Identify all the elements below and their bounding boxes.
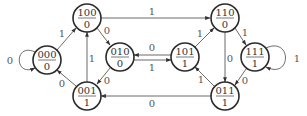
state-output: 0 — [117, 58, 123, 69]
state-code: 101 — [175, 46, 194, 57]
edge-label-011-101: 1 — [198, 74, 204, 85]
state-111: 111 1 — [241, 43, 269, 71]
state-code: 000 — [37, 49, 56, 60]
edge-label-011-001: 0 — [149, 98, 155, 109]
state-code: 100 — [77, 7, 96, 18]
state-output: 1 — [222, 97, 228, 108]
state-100: 100 0 — [73, 4, 101, 32]
state-001: 001 1 — [73, 82, 101, 110]
edge-label-111-111: 1 — [294, 53, 300, 64]
state-code: 110 — [215, 7, 234, 18]
state-output: 0 — [84, 19, 90, 30]
state-diagram: 0 1 1 0 0 0 1 1 0 1 0 1 1 0 1 0 000 0 — [0, 0, 307, 116]
edge-label-001-100: 1 — [89, 53, 95, 64]
state-011: 011 1 — [211, 82, 239, 110]
state-output: 1 — [252, 58, 258, 69]
state-code: 010 — [110, 46, 129, 57]
state-110: 110 0 — [211, 4, 239, 32]
edge-label-110-111: 1 — [242, 27, 248, 38]
edge-label-100-010: 0 — [104, 25, 110, 36]
state-code: 001 — [77, 85, 96, 96]
edge-label-000-000: 0 — [7, 55, 13, 66]
edge-label-101-110: 1 — [197, 28, 203, 39]
state-code: 011 — [215, 85, 234, 96]
state-output: 0 — [44, 61, 50, 72]
state-output: 0 — [222, 19, 228, 30]
edge-label-000-100: 1 — [59, 28, 65, 39]
state-output: 1 — [84, 97, 90, 108]
edge-label-010-101: 1 — [149, 62, 155, 73]
state-101: 101 1 — [171, 43, 199, 71]
state-output: 1 — [182, 58, 188, 69]
state-code: 111 — [245, 46, 264, 57]
edge-label-001-000: 0 — [59, 78, 65, 89]
edge-label-110-011: 0 — [227, 53, 233, 64]
edge-label-111-011: 0 — [242, 75, 248, 86]
edge-label-010-001: 0 — [104, 75, 110, 86]
state-010: 010 0 — [106, 43, 134, 71]
edge-label-100-110: 1 — [149, 6, 155, 17]
state-000: 000 0 — [33, 46, 61, 74]
edge-label-101-010: 0 — [149, 42, 155, 53]
